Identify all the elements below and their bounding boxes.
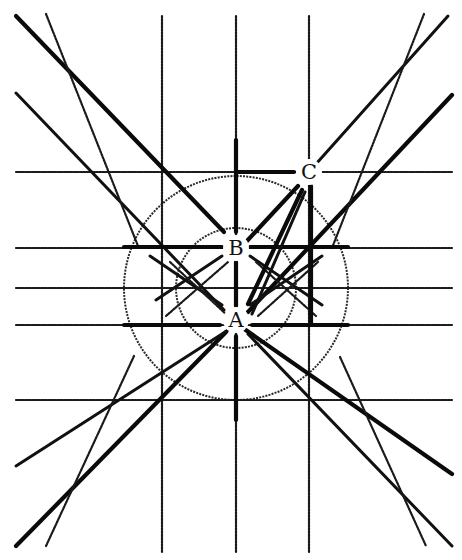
construction-canvas: A B C bbox=[0, 0, 462, 560]
cross-line bbox=[156, 256, 222, 300]
diagonal-line bbox=[16, 332, 226, 546]
point-b-label: B bbox=[228, 236, 243, 260]
point-b: B bbox=[223, 235, 249, 261]
diagonal-line bbox=[248, 334, 452, 546]
diagonal-line bbox=[340, 357, 426, 546]
point-c: C bbox=[296, 159, 322, 185]
diagonal-line bbox=[46, 356, 134, 546]
line-to-c bbox=[252, 192, 305, 314]
point-c-label: C bbox=[301, 160, 317, 184]
diagonal-line bbox=[316, 16, 448, 164]
geometric-construction-diagram: A B C bbox=[0, 0, 462, 560]
point-a: A bbox=[223, 307, 249, 333]
point-a-label: A bbox=[227, 308, 244, 332]
